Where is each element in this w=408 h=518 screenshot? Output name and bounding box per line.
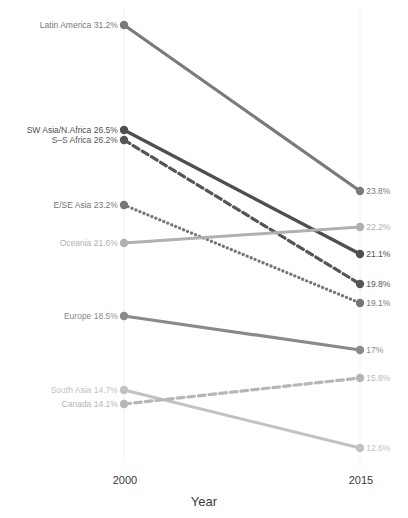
datapoint-europe-start — [120, 312, 128, 320]
datapoint-europe-end — [356, 346, 364, 354]
label-left-europe: Europe 18.5% — [64, 312, 118, 321]
label-right-e-se-asia: 19.1% — [366, 299, 390, 308]
datapoint-sw-asia-n-africa-end — [356, 250, 364, 258]
label-left-south-asia: South Asia 14.7% — [51, 386, 118, 395]
series-lines — [124, 25, 360, 448]
label-right-oceania: 22.2% — [366, 223, 390, 232]
datapoint-canada-start — [120, 400, 128, 408]
datapoint-s-s-africa-end — [356, 280, 364, 288]
chart-plot-area — [0, 0, 408, 518]
series-line-latin-america — [124, 25, 360, 191]
label-right-s-s-africa: 19.8% — [366, 280, 390, 289]
datapoint-oceania-start — [120, 239, 128, 247]
series-line-europe — [124, 316, 360, 350]
slope-chart: Latin America 31.2%SW Asia/N.Africa 26.5… — [0, 0, 408, 518]
datapoint-e-se-asia-start — [120, 201, 128, 209]
label-left-canada: Canada 14.1% — [62, 400, 118, 409]
datapoint-south-asia-start — [120, 386, 128, 394]
series-line-s-s-africa — [124, 140, 360, 284]
label-left-sw-asia-n-africa: SW Asia/N.Africa 26.5% — [27, 126, 118, 135]
datapoint-latin-america-end — [356, 187, 364, 195]
x-tick-2015: 2015 — [343, 474, 379, 486]
label-right-south-asia: 12.6% — [366, 444, 390, 453]
label-right-latin-america: 23.8% — [366, 187, 390, 196]
x-axis-title: Year — [0, 494, 408, 509]
datapoint-latin-america-start — [120, 21, 128, 29]
label-left-oceania: Oceania 21.6% — [60, 239, 118, 248]
datapoint-canada-end — [356, 374, 364, 382]
label-left-latin-america: Latin America 31.2% — [40, 21, 118, 30]
x-tick-2000: 2000 — [107, 474, 143, 486]
series-line-e-se-asia — [124, 205, 360, 303]
label-left-s-s-africa: S–S Africa 26.2% — [52, 136, 118, 145]
label-left-e-se-asia: E/SE Asia 23.2% — [54, 201, 118, 210]
datapoint-sw-asia-n-africa-start — [120, 126, 128, 134]
datapoint-south-asia-end — [356, 444, 364, 452]
label-right-sw-asia-n-africa: 21.1% — [366, 250, 390, 259]
label-right-canada: 15.8% — [366, 374, 390, 383]
datapoint-e-se-asia-end — [356, 299, 364, 307]
label-right-europe: 17% — [366, 346, 383, 355]
datapoint-s-s-africa-start — [120, 136, 128, 144]
datapoint-oceania-end — [356, 223, 364, 231]
series-line-canada — [124, 378, 360, 404]
